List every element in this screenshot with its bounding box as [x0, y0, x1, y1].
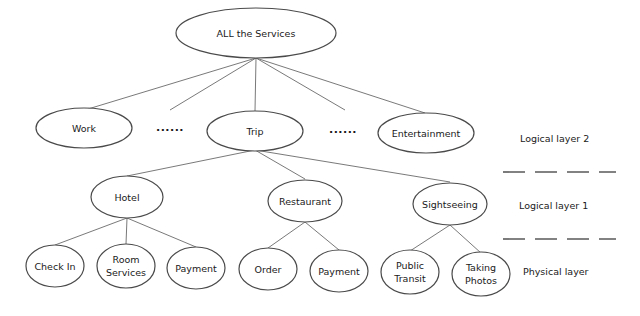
node-work: Work — [36, 108, 132, 148]
root-edges — [88, 58, 425, 113]
layer-label-logical-2: Logical layer 2 — [520, 133, 589, 144]
trip-edges — [127, 150, 450, 182]
layer-label-physical: Physical layer — [523, 266, 589, 277]
node-label: Entertainment — [392, 128, 461, 139]
node-label: Payment — [318, 266, 360, 277]
node-label: Order — [255, 264, 282, 275]
node-hotel: Hotel — [91, 176, 163, 218]
node-label: ALL the Services — [217, 28, 296, 39]
node-sightseeing: Sightseeing — [413, 183, 487, 225]
node-taking-photos: Taking Photos — [452, 252, 510, 296]
node-restaurant-payment: Payment — [310, 250, 368, 292]
node-public-transit: Public Transit — [381, 250, 439, 294]
ellipsis-left: ...... — [156, 121, 184, 134]
node-label-line1: Public — [396, 260, 424, 271]
service-hierarchy-diagram: ALL the Services Work ...... Trip ......… — [0, 0, 640, 316]
node-label: Restaurant — [279, 196, 331, 207]
node-label-line2: Services — [106, 267, 146, 278]
node-label-line1: Room — [112, 254, 139, 265]
node-label: Check In — [34, 261, 75, 272]
node-label-line2: Photos — [465, 275, 497, 286]
node-hotel-payment: Payment — [167, 247, 225, 289]
node-restaurant: Restaurant — [268, 180, 342, 222]
node-trip: Trip — [207, 111, 303, 151]
node-label: Work — [72, 123, 97, 134]
node-all-services: ALL the Services — [176, 8, 336, 58]
node-label: Trip — [246, 126, 264, 137]
node-label: Payment — [175, 263, 217, 274]
node-label: Hotel — [114, 192, 139, 203]
node-entertainment: Entertainment — [378, 113, 474, 153]
node-label-line1: Taking — [465, 262, 496, 273]
node-order: Order — [239, 248, 297, 290]
node-label-line2: Transit — [393, 273, 426, 284]
node-room-services: Room Services — [97, 244, 155, 288]
node-label: Sightseeing — [422, 199, 478, 210]
ellipsis-right: ...... — [329, 123, 357, 136]
node-check-in: Check In — [26, 245, 84, 287]
layer-label-logical-1: Logical layer 1 — [519, 200, 588, 211]
